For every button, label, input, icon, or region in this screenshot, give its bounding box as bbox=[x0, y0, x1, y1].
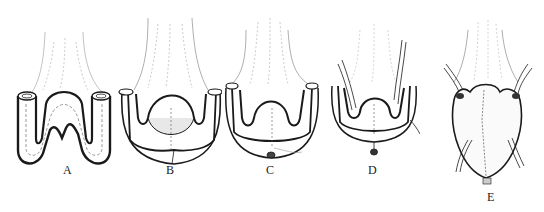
panel-label: B bbox=[166, 163, 174, 178]
surgical-illustration: A B bbox=[0, 0, 544, 212]
w-loop-drawing bbox=[10, 0, 120, 212]
completed-pouch-drawing bbox=[440, 0, 540, 212]
panel-c: C bbox=[224, 0, 320, 212]
panel-a: A bbox=[10, 0, 120, 212]
catheter-placement-drawing bbox=[330, 0, 420, 212]
panel-d: D bbox=[330, 0, 420, 212]
panel-label: D bbox=[368, 163, 377, 178]
opened-loop-drawing bbox=[118, 0, 222, 212]
panel-b: B bbox=[118, 0, 222, 212]
panel-label: C bbox=[266, 163, 274, 178]
posterior-wall-drawing bbox=[224, 0, 320, 212]
panel-label: A bbox=[63, 163, 72, 178]
panel-e: E bbox=[440, 0, 540, 212]
panel-label: E bbox=[487, 190, 494, 205]
